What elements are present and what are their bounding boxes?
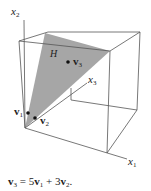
caption-equation: v3 = 5v1 + 3v2. xyxy=(8,175,72,189)
point-v2 xyxy=(33,116,37,120)
plane-h-label: H xyxy=(50,49,57,59)
box-edge xyxy=(107,51,110,153)
point-v1 xyxy=(26,111,30,115)
box-edge xyxy=(137,32,140,110)
box-edge xyxy=(107,110,137,153)
v1-label: v1 xyxy=(14,106,23,119)
v3-label: v3 xyxy=(73,56,82,69)
x2-axis-label: x2 xyxy=(11,6,19,19)
x3-axis-label: x3 xyxy=(88,74,96,87)
x1-axis-label: x1 xyxy=(128,156,136,169)
box-edge xyxy=(71,100,137,110)
v2-label: v2 xyxy=(40,115,49,128)
span-plane-diagram: x2 x3 x1 H v1 v2 v3 xyxy=(0,0,151,191)
point-v3 xyxy=(66,60,70,64)
x1-axis xyxy=(25,128,127,159)
plane-h xyxy=(25,33,110,128)
